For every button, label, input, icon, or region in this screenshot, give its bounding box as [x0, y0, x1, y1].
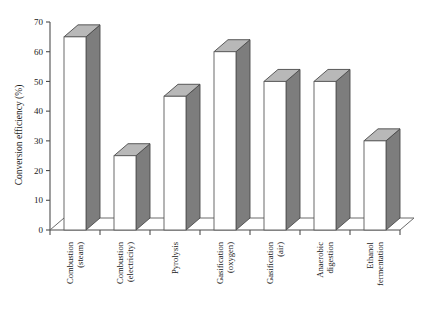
- bar: [114, 144, 150, 230]
- x-category-label: Combustion: [115, 241, 125, 284]
- x-category-label: Ethanol: [365, 241, 375, 268]
- y-axis-ticks: 010203040506070: [34, 17, 50, 235]
- x-category-label: Combustion: [65, 241, 75, 284]
- y-tick-label: 20: [34, 166, 44, 176]
- x-category-label: digestion: [325, 241, 335, 273]
- bar: [64, 25, 100, 230]
- x-category-label: (electricity): [125, 242, 135, 282]
- bar: [364, 129, 400, 230]
- bar: [264, 69, 300, 230]
- bar: [314, 69, 350, 230]
- x-category-label: (oxygen): [225, 242, 235, 273]
- y-tick-label: 40: [34, 106, 44, 116]
- x-axis-labels: Combustion(steam)Combustion(electricity)…: [65, 241, 385, 286]
- bar: [164, 84, 200, 230]
- y-axis-title: Conversion efficiency (%): [14, 85, 25, 186]
- y-tick-label: 60: [34, 47, 44, 57]
- x-category-label: fermentation: [375, 241, 385, 286]
- y-tick-label: 0: [39, 225, 44, 235]
- y-tick-label: 10: [34, 195, 44, 205]
- x-category-label: Gasification: [215, 241, 225, 284]
- x-category-label: Gasification: [265, 241, 275, 284]
- x-category-label: (air): [275, 242, 285, 257]
- chart-canvas: Conversion efficiency (%) 01020304050607…: [0, 0, 434, 311]
- y-tick-label: 50: [34, 77, 44, 87]
- y-tick-label: 70: [34, 17, 44, 27]
- x-category-label: Anaerobic: [315, 242, 325, 278]
- x-category-label: Pyrolysis: [170, 241, 180, 274]
- y-tick-label: 30: [34, 136, 44, 146]
- x-category-label: (steam): [75, 242, 85, 268]
- x-axis-ticks: [50, 230, 400, 235]
- bar-chart-figure: Conversion efficiency (%) 01020304050607…: [0, 0, 434, 311]
- bar: [214, 40, 250, 230]
- bars-group: [64, 25, 400, 230]
